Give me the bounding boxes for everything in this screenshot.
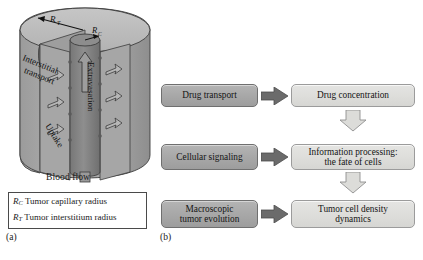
legend-text: Tumor capillary radius	[25, 196, 107, 206]
tumor-density-line1: Tumor cell density	[318, 204, 388, 214]
information-processing-line2: the fate of cells	[324, 157, 381, 167]
legend-row: RT Tumor interstitium radius	[13, 212, 116, 222]
panel-b-modeling-flowchart: Drug transport Drug concentration Cellul…	[155, 0, 423, 260]
arrow-down-icon-row1	[339, 110, 367, 132]
flow-box-cellular-signaling[interactable]: Cellular signaling	[161, 144, 258, 170]
r-c-subscript: C	[98, 31, 102, 37]
arrow-right-icon-row3	[261, 205, 289, 223]
r-c-label: R	[91, 25, 98, 35]
arrow-right-icon-row1	[261, 87, 289, 105]
cylinder-svg: R T R C Interstitial transport Extravasa…	[0, 0, 170, 190]
flow-box-drug-concentration[interactable]: Drug concentration	[291, 84, 415, 107]
flow-box-macroscopic-tumor-evolution[interactable]: Macroscopic tumor evolution	[161, 200, 258, 228]
arrow-right-icon-row2	[261, 148, 289, 166]
legend-text: Tumor interstitium radius	[24, 212, 116, 222]
arrow-down-icon-row2	[339, 172, 367, 194]
panel-a-tumor-geometry: R T R C Interstitial transport Extravasa…	[0, 0, 170, 260]
panel-a-tag: (a)	[6, 232, 17, 242]
flow-box-tumor-cell-density-dynamics[interactable]: Tumor cell density dynamics	[291, 200, 415, 228]
r-t-label: R	[49, 14, 56, 24]
legend-subscript: C	[19, 199, 23, 206]
legend-subscript: T	[19, 215, 23, 222]
tumor-density-line2: dynamics	[335, 214, 371, 224]
macroscopic-line1: Macroscopic	[185, 204, 233, 214]
information-processing-line1: Information processing:	[308, 147, 397, 157]
radius-legend-box: RC Tumor capillary radius RT Tumor inter…	[8, 192, 147, 229]
flow-box-drug-transport[interactable]: Drug transport	[161, 84, 258, 107]
extravasation-label: Extravasation	[86, 62, 96, 112]
legend-row: RC Tumor capillary radius	[13, 196, 107, 206]
macroscopic-line2: tumor evolution	[180, 214, 240, 224]
blood-flow-label: Blood flow	[46, 172, 90, 182]
flow-box-information-processing[interactable]: Information processing: the fate of cell…	[291, 144, 415, 170]
tumor-capillary-cylinder-diagram: R T R C Interstitial transport Extravasa…	[0, 0, 170, 190]
panel-b-tag: (b)	[160, 232, 171, 242]
